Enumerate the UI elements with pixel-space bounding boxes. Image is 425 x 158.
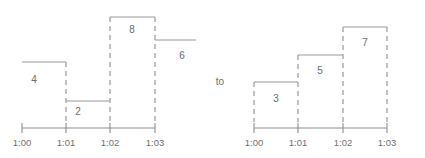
unsorted-step-chart-svg: 4 2 8 6 1:00 1:01 1:02 1:03	[0, 0, 200, 158]
x-axis-tick-label: 1:01	[289, 137, 308, 148]
step-value-label: 6	[179, 50, 185, 61]
step-value-label: 2	[75, 106, 81, 117]
x-axis-tick-label: 1:02	[334, 137, 353, 148]
connector-label: to	[205, 76, 235, 88]
step-value-label: 8	[129, 24, 135, 35]
step-value-label: 3	[273, 93, 279, 104]
x-axis-tick-label: 1:03	[378, 137, 397, 148]
step-value-label: 4	[31, 74, 37, 85]
x-axis-tick-label: 1:02	[101, 137, 120, 148]
unsorted-step-chart-panel: 4 2 8 6 1:00 1:01 1:02 1:03	[0, 0, 200, 158]
sorted-step-chart-svg: 3 5 7 1:00 1:01 1:02 1:03	[238, 0, 425, 158]
x-axis-tick-label: 1:01	[57, 137, 76, 148]
sorted-step-chart-panel: 3 5 7 1:00 1:01 1:02 1:03	[238, 0, 425, 158]
x-axis-tick-label: 1:00	[13, 137, 32, 148]
x-axis-tick-label: 1:03	[146, 137, 165, 148]
step-value-label: 7	[362, 37, 368, 48]
x-axis-tick-label: 1:00	[245, 137, 264, 148]
step-value-label: 5	[317, 65, 323, 76]
step-chart-figure: 4 2 8 6 1:00 1:01 1:02 1:03 to	[0, 0, 425, 158]
